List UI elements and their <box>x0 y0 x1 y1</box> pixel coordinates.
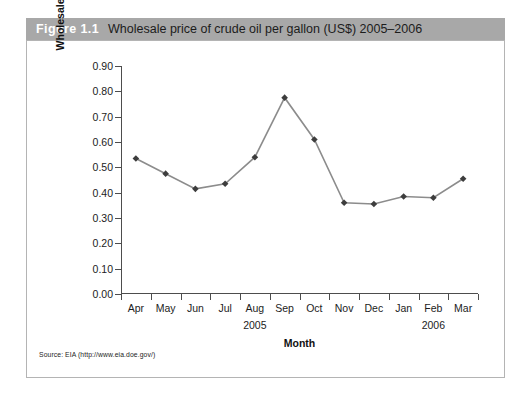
x-axis-tick-label: May <box>156 302 176 314</box>
x-axis-tick <box>389 294 390 300</box>
line-series-svg <box>121 66 478 294</box>
x-axis-tick <box>121 294 122 300</box>
y-axis-tick-label: 0.10 <box>93 263 113 275</box>
y-axis-tick-label: 0.90 <box>93 60 113 72</box>
x-axis-tick-label: Aug <box>246 302 265 314</box>
x-axis-tick-label: Apr <box>128 302 144 314</box>
x-axis-tick <box>181 294 182 300</box>
x-axis-tick <box>448 294 449 300</box>
y-axis-title-line1: Wholesale Price of Crude Oil per <box>54 0 67 50</box>
x-axis-group-label: 2006 <box>422 319 445 331</box>
data-point-marker <box>192 186 199 193</box>
x-axis-tick <box>359 294 360 300</box>
y-axis-title: Wholesale Price of Crude Oil per Gallon … <box>57 0 77 69</box>
x-axis-tick <box>329 294 330 300</box>
x-axis-tick-label: Jul <box>218 302 231 314</box>
data-point-marker <box>341 200 348 207</box>
data-point-marker <box>371 201 378 208</box>
plot-area: 0.900.800.700.600.500.400.300.200.100.00… <box>121 66 478 294</box>
series-line <box>136 98 463 204</box>
x-axis-tick <box>419 294 420 300</box>
data-point-marker <box>162 170 169 177</box>
x-axis-tick-label: Oct <box>306 302 322 314</box>
y-axis-tick-label: 0.30 <box>93 212 113 224</box>
y-axis-tick-label: 0.50 <box>93 161 113 173</box>
figure-caption-bar: Figure 1.1 Wholesale price of crude oil … <box>26 18 505 40</box>
data-point-marker <box>400 193 407 200</box>
x-axis-title: Month <box>121 337 478 349</box>
x-axis-tick <box>478 294 479 300</box>
chart-panel: Wholesale Price of Crude Oil per Gallon … <box>26 40 505 378</box>
x-axis-tick-label: Nov <box>335 302 354 314</box>
y-axis-tick-label: 0.40 <box>93 187 113 199</box>
x-axis-tick <box>240 294 241 300</box>
x-axis-tick-label: Dec <box>365 302 384 314</box>
figure-block: Figure 1.1 Wholesale price of crude oil … <box>26 18 505 378</box>
x-axis-tick <box>300 294 301 300</box>
x-axis-tick-label: Feb <box>424 302 442 314</box>
y-axis-tick-label: 0.00 <box>93 288 113 300</box>
x-axis-tick-label: Mar <box>454 302 472 314</box>
x-axis-tick <box>210 294 211 300</box>
y-axis-title-line2: Gallon (US$) <box>67 0 80 50</box>
x-axis-tick <box>151 294 152 300</box>
y-axis-tick-label: 0.60 <box>93 136 113 148</box>
y-axis-tick-label: 0.70 <box>93 111 113 123</box>
source-note: Source: EIA (http://www.eia.doe.gov/) <box>39 351 155 358</box>
y-axis-tick-label: 0.20 <box>93 237 113 249</box>
x-axis-tick-label: Jun <box>187 302 204 314</box>
x-axis-group-label: 2005 <box>243 319 266 331</box>
x-axis-tick-label: Sep <box>275 302 294 314</box>
x-axis-tick <box>270 294 271 300</box>
data-point-marker <box>133 155 140 162</box>
figure-caption-text: Wholesale price of crude oil per gallon … <box>108 22 422 36</box>
x-axis-tick-label: Jan <box>395 302 412 314</box>
y-axis-tick-label: 0.80 <box>93 85 113 97</box>
